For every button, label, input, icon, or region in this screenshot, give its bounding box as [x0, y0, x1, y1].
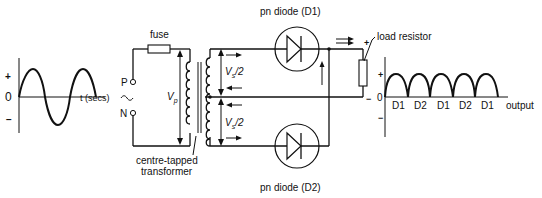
p-terminal-label: P [121, 77, 128, 88]
fuse-label: fuse [150, 29, 169, 40]
output-d2-label-1: D2 [414, 100, 427, 111]
n-terminal-label: N [120, 108, 127, 119]
vp-label: Vp [167, 91, 178, 105]
load-plus-label: + [364, 38, 369, 48]
primary-circuit: fuse P N Vp [120, 29, 190, 146]
input-minus-label: − [6, 114, 12, 125]
n-terminal-icon [130, 110, 135, 115]
input-waveform-graph: + 0 − t (secs) [5, 58, 110, 133]
input-plus-label: + [5, 71, 11, 82]
output-d1-label-1: D1 [392, 100, 405, 111]
output-waveform-graph: + 0 − D1 D2 D1 D2 D1 output [377, 57, 534, 137]
output-rectified-wave [385, 74, 498, 97]
output-minus-label: − [378, 113, 383, 123]
p-terminal-icon [130, 79, 135, 84]
output-zero-label: 0 [377, 92, 383, 103]
transformer: centre-tapped transformer [136, 58, 210, 177]
diode-d1: pn diode (D1) [260, 6, 321, 71]
output-d1-label-3: D1 [481, 100, 494, 111]
rectifier-diagram: + 0 − t (secs) fuse P N Vp [0, 0, 542, 198]
vs-upper-label: Vs/2 [225, 66, 244, 79]
transformer-label-line1: centre-tapped [136, 155, 198, 166]
d1-label: pn diode (D1) [260, 6, 321, 17]
load-minus-label: − [366, 94, 371, 104]
input-zero-label: 0 [5, 90, 12, 104]
diode-d2: pn diode (D2) [260, 124, 321, 193]
output-d2-label-2: D2 [459, 100, 472, 111]
ac-source-icon [121, 96, 133, 101]
fuse-icon [148, 45, 170, 53]
transformer-label-line2: transformer [141, 166, 193, 177]
output-d1-label-2: D1 [437, 100, 450, 111]
secondary-coil-icon [206, 58, 210, 146]
d2-label: pn diode (D2) [260, 182, 321, 193]
resistor-icon [359, 60, 367, 86]
load-resistor-label: load resistor [377, 31, 432, 42]
load-resistor: + − load resistor [359, 31, 432, 104]
primary-coil-icon [186, 62, 190, 124]
output-x-label: output [506, 100, 534, 111]
vs-lower-label: Vs/2 [225, 117, 244, 130]
input-x-label: t (secs) [80, 93, 110, 103]
output-plus-label: + [378, 70, 383, 80]
